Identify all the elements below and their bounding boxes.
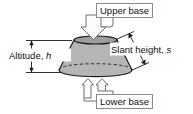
- slant-lower-tick: [131, 63, 149, 71]
- lower-base-block-arrow-left: [82, 79, 94, 99]
- altitude-label: Altitude, h: [9, 49, 51, 60]
- slant-label-symbol: s: [166, 43, 171, 54]
- slant-label: Slant height, s: [111, 43, 171, 54]
- upper-base-callout: [81, 15, 113, 40]
- lower-base-label: Lower base: [96, 94, 153, 109]
- upper-base-leader: [101, 18, 113, 27]
- slant-label-text: Slant height,: [111, 43, 166, 54]
- figure-canvas: Altitude, h Slant height, s: [0, 0, 193, 114]
- lower-base-block-arrow-right: [96, 79, 108, 92]
- altitude-label-text: Altitude,: [9, 49, 46, 60]
- altitude-label-symbol: h: [46, 49, 51, 60]
- upper-base-label: Upper base: [96, 3, 153, 18]
